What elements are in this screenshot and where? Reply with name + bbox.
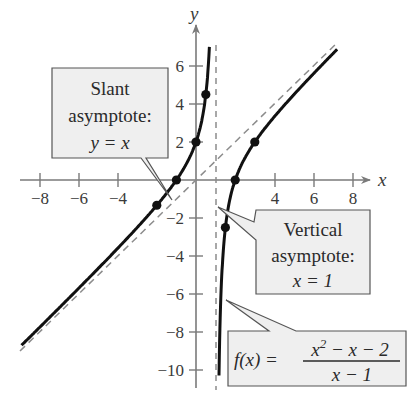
slant-callout-line2: asymptote:: [68, 105, 151, 126]
y-tick-label: 6: [176, 57, 185, 76]
y-tick-label: −6: [166, 285, 184, 304]
data-point: [231, 175, 240, 184]
vertical-callout-line3: x = 1: [292, 270, 333, 291]
function-lhs: f(x) =: [234, 349, 278, 371]
x-tick-label: 4: [271, 189, 280, 208]
x-tick-labels: −8 −6 −4 4 6 8: [31, 189, 357, 208]
y-tick-label: −4: [166, 247, 185, 266]
vertical-asymptote-callout: Vertical asymptote: x = 1: [218, 207, 370, 294]
y-tick-label: −2: [166, 209, 184, 228]
y-tick-label: 2: [176, 133, 185, 152]
vertical-callout-line2: asymptote:: [271, 245, 354, 266]
slant-callout-line3: y = x: [88, 132, 130, 153]
data-point: [221, 223, 230, 232]
x-tick-label: −4: [109, 189, 128, 208]
x-tick-label: −8: [31, 189, 49, 208]
rational-function-graph: x y −8 −6 −4 4 6 8: [0, 0, 420, 408]
y-tick-label: −8: [166, 323, 184, 342]
data-point: [201, 90, 210, 99]
data-point: [250, 137, 259, 146]
x-axis-label: x: [377, 169, 387, 190]
x-tick-label: −6: [70, 189, 88, 208]
x-tick-label: 8: [349, 189, 358, 208]
function-denominator: x − 1: [331, 364, 372, 385]
slant-callout-line1: Slant: [90, 78, 130, 99]
data-point: [191, 137, 200, 146]
y-tick-label: 4: [176, 95, 185, 114]
chart-stage: x y −8 −6 −4 4 6 8: [0, 0, 420, 408]
y-axis-label: y: [188, 3, 199, 24]
x-tick-label: 6: [310, 189, 319, 208]
data-point: [172, 175, 181, 184]
data-point: [152, 201, 161, 210]
vertical-callout-line1: Vertical: [283, 219, 342, 240]
function-callout: f(x) = x2 − x − 2 x − 1: [226, 300, 406, 386]
y-tick-label: −10: [157, 361, 184, 380]
